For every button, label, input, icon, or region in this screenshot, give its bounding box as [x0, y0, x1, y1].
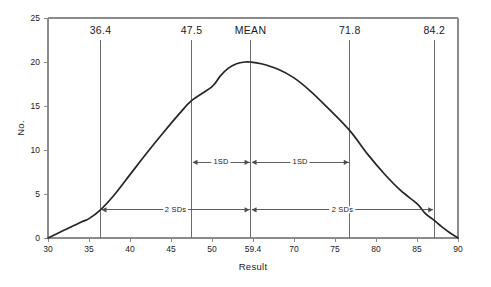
arrowhead-left-sd-left-1 — [193, 160, 198, 165]
arrowhead-right-sd-right-1 — [344, 160, 349, 165]
x-axis-tick-label: 50 — [207, 245, 216, 254]
distribution-chart-figure: 303540455059.47075808590051015202536.447… — [0, 0, 491, 287]
x-axis-tick-label: 45 — [166, 245, 175, 254]
x-axis-tick-label: 35 — [84, 245, 93, 254]
marker-lines — [100, 40, 434, 238]
arrowhead-right-sd-left-2 — [245, 207, 250, 212]
bell-curve-path — [48, 62, 458, 238]
x-axis-tick-label: 40 — [125, 245, 134, 254]
x-axis-tick-label: 90 — [453, 245, 462, 254]
y-axis-tick-label: 10 — [0, 146, 40, 155]
x-axis-tick-label: 85 — [412, 245, 421, 254]
x-axis-title: Result — [239, 262, 268, 272]
arrowhead-right-sd-left-1 — [245, 160, 250, 165]
marker-label-minus-2sd: 36.4 — [90, 25, 112, 36]
x-axis-tick-label: 70 — [289, 245, 298, 254]
annotation-label-sd-right-2: 2 SDs — [330, 206, 355, 214]
y-axis-tick-label: 5 — [0, 190, 40, 199]
y-axis-tick-label: 25 — [0, 14, 40, 23]
x-axis-tick-label: 80 — [371, 245, 380, 254]
annotation-label-sd-left-2: 2 SDs — [163, 206, 188, 214]
arrowhead-right-sd-right-2 — [428, 207, 433, 212]
marker-label-plus-2sd: 84.2 — [423, 25, 445, 36]
marker-label-plus-1sd: 71.8 — [339, 25, 361, 36]
x-axis-tick-label: 59.4 — [245, 245, 262, 254]
axis-frame — [48, 18, 458, 238]
annotation-label-sd-right-1: 1SD — [291, 159, 310, 167]
y-axis-tick-label: 15 — [0, 102, 40, 111]
y-axis-tick-label: 0 — [0, 234, 40, 243]
distribution-curve — [48, 62, 458, 238]
y-axis-title: No. — [15, 120, 26, 136]
arrowhead-left-sd-right-2 — [252, 207, 257, 212]
y-axis-title-wrapper: No. — [15, 120, 26, 136]
arrowhead-left-sd-right-1 — [252, 160, 257, 165]
x-axis-tick-label: 75 — [330, 245, 339, 254]
x-axis-tick-label: 30 — [43, 245, 52, 254]
annotation-label-sd-left-1: 1SD — [211, 159, 230, 167]
sd-annotation-arrows — [101, 160, 433, 213]
marker-label-minus-1sd: 47.5 — [181, 25, 203, 36]
y-axis-tick-label: 20 — [0, 58, 40, 67]
marker-label-mean: MEAN — [235, 25, 267, 36]
